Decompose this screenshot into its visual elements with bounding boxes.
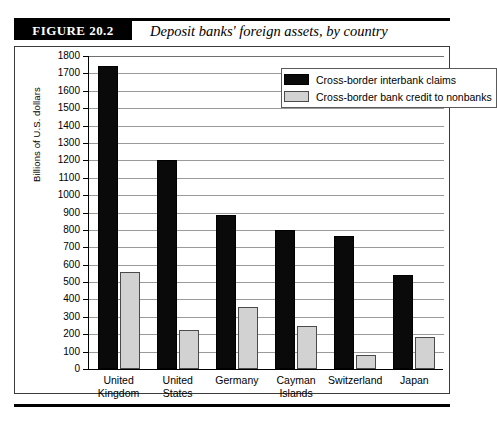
y-axis-tick [83,195,88,196]
y-axis-tick [83,317,88,318]
chart-legend: Cross-border interbank claims Cross-bord… [281,68,497,108]
y-axis-tick-label: 1800 [46,51,80,61]
gridline [89,334,444,335]
y-axis-tick [83,230,88,231]
bar-japan-series-1 [393,275,413,369]
bar-united-states-series-2 [179,330,199,369]
bar-japan-series-2 [415,337,435,369]
plot-area: 0100200300400500600700800900100011001200… [88,56,443,370]
y-axis-tick [83,108,88,109]
y-axis-tick-label: 1100 [46,173,80,183]
y-axis-tick-label: 700 [46,242,80,252]
x-axis-label-cayman-islands: CaymanIslands [267,374,326,400]
y-axis-tick [83,334,88,335]
legend-swatch-icon-light [284,91,309,102]
y-axis-tick-label: 1500 [46,103,80,113]
y-axis-tick-label: 500 [46,277,80,287]
y-axis-tick [83,352,88,353]
gridline [89,317,444,318]
bar-united-kingdom-series-2 [120,272,140,369]
gridline [89,143,444,144]
y-axis-tick [83,369,88,370]
y-axis-tick [83,91,88,92]
y-axis-tick [83,73,88,74]
gridline [89,195,444,196]
y-axis-tick-label: 1400 [46,121,80,131]
y-axis-tick [83,160,88,161]
gridline [89,282,444,283]
x-axis-label-united-kingdom: UnitedKingdom [89,374,148,400]
y-axis-tick [83,247,88,248]
gridline [89,247,444,248]
y-axis-tick [83,299,88,300]
legend-item-interbank-claims: Cross-border interbank claims [284,71,492,88]
figure-badge-prefix: FIGURE [32,23,85,39]
figure-number-badge: FIGURE 20.2 [14,21,132,40]
legend-swatch-icon-dark [284,74,309,85]
y-axis-tick-label: 200 [46,329,80,339]
gridline [89,213,444,214]
y-axis-tick-label: 600 [46,260,80,270]
gridline [89,230,444,231]
y-axis-tick-label: 300 [46,312,80,322]
y-axis-tick [83,213,88,214]
legend-label-interbank-claims: Cross-border interbank claims [316,74,456,86]
y-axis-tick [83,143,88,144]
bar-cayman-islands-series-1 [275,230,295,369]
y-axis-tick-label: 1700 [46,68,80,78]
legend-item-credit-to-nonbanks: Cross-border bank credit to nonbanks [284,88,492,105]
gridline [89,265,444,266]
y-axis-tick-label: 1200 [46,155,80,165]
y-axis-tick [83,126,88,127]
y-axis-tick [83,56,88,57]
bar-germany-series-1 [216,215,236,369]
chart-panel: Billions of U.S. dollars 010020030040050… [14,46,450,394]
bar-germany-series-2 [238,307,258,369]
gridline [89,352,444,353]
gridline [89,56,444,57]
y-axis-tick-label: 900 [46,208,80,218]
y-axis-tick-label: 100 [46,347,80,357]
x-axis-label-switzerland: Switzerland [326,374,385,387]
y-axis-tick [83,178,88,179]
x-axis-label-germany: Germany [207,374,266,387]
bar-switzerland-series-1 [334,236,354,369]
figure-badge-number: 20.2 [89,23,113,39]
y-axis-tick [83,265,88,266]
y-axis-title: Billions of U.S. dollars [31,168,42,182]
y-axis-tick-label: 1300 [46,138,80,148]
bar-united-kingdom-series-1 [98,66,118,369]
y-axis-tick-label: 1000 [46,190,80,200]
x-axis-label-united-states: UnitedStates [148,374,207,400]
gridline [89,299,444,300]
x-axis-label-japan: Japan [385,374,444,387]
bar-cayman-islands-series-2 [297,326,317,369]
y-axis-tick [83,282,88,283]
legend-label-credit-to-nonbanks: Cross-border bank credit to nonbanks [316,91,492,103]
bar-switzerland-series-2 [356,355,376,369]
gridline [89,178,444,179]
gridline [89,126,444,127]
y-axis-tick-label: 400 [46,294,80,304]
y-axis-tick-label: 800 [46,225,80,235]
figure-bottom-rule [14,404,450,407]
bar-united-states-series-1 [157,160,177,369]
y-axis-tick-label: 0 [46,364,80,374]
figure-title: Deposit banks' foreign assets, by countr… [150,22,388,40]
gridline [89,160,444,161]
gridline [89,108,444,109]
y-axis-tick-label: 1600 [46,86,80,96]
